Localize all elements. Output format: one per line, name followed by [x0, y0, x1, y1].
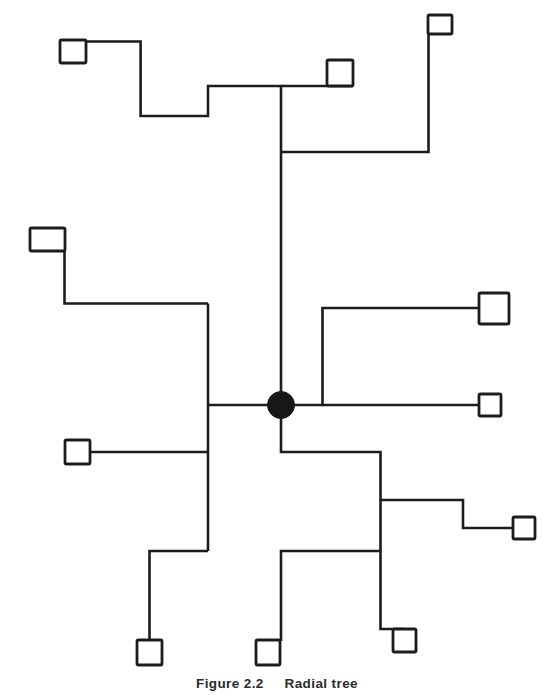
- leaf-node-north-west[interactable]: [60, 40, 86, 63]
- figure-caption-label: Figure 2.2: [196, 676, 264, 691]
- leaf-node-west-lower[interactable]: [65, 440, 90, 464]
- edge-south-left[interactable]: [150, 551, 209, 641]
- edge-east-upper[interactable]: [281, 308, 479, 405]
- leaf-node-south-left[interactable]: [137, 640, 162, 665]
- leaf-node-north-east[interactable]: [428, 15, 452, 34]
- edge-south-east[interactable]: [381, 500, 514, 528]
- leaf-node-south-east[interactable]: [513, 517, 535, 539]
- leaf-node-group: [30, 15, 535, 665]
- edge-south-right[interactable]: [381, 551, 405, 629]
- figure-caption-separator: [268, 676, 280, 691]
- figure-caption-text: Radial tree: [285, 676, 358, 691]
- leaf-node-north-inner[interactable]: [327, 60, 353, 86]
- edge-west-upper[interactable]: [65, 250, 209, 304]
- radial-tree-diagram: [0, 0, 554, 695]
- leaf-node-east-mid[interactable]: [479, 394, 501, 416]
- edge-group: [65, 33, 514, 641]
- leaf-node-south-center[interactable]: [256, 640, 280, 665]
- edge-north-west[interactable]: [86, 42, 281, 406]
- figure-container: Figure 2.2 Radial tree: [0, 0, 554, 695]
- figure-caption: Figure 2.2 Radial tree: [0, 676, 554, 691]
- leaf-node-south-right[interactable]: [393, 629, 416, 652]
- root-hub-node[interactable]: [268, 392, 295, 419]
- leaf-node-west-upper[interactable]: [30, 228, 65, 251]
- edge-north-east[interactable]: [281, 33, 429, 152]
- leaf-node-east-upper[interactable]: [479, 293, 509, 324]
- edge-south-trunk[interactable]: [281, 405, 381, 641]
